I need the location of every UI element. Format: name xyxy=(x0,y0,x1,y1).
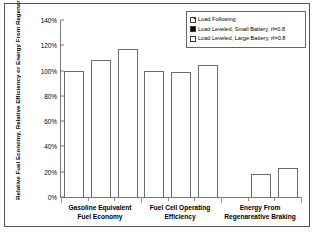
legend-entry-label: Load Leveled, Large Battery, rf=0.8 xyxy=(198,35,285,42)
legend-swatch-icon xyxy=(190,36,196,42)
x-axis-category-label-line1: Energy From xyxy=(220,203,300,212)
x-axis-tick-mark xyxy=(301,197,302,203)
x-axis-category-label: Energy FromRegenareative Braking xyxy=(220,203,300,221)
y-axis-tick-label: 100% xyxy=(41,67,57,74)
x-axis-tick-mark xyxy=(88,197,89,201)
legend-entry: Load Following xyxy=(190,15,302,25)
legend-entry: Load Leveled, Small Battery, rf=0.8 xyxy=(190,25,302,35)
y-axis-tick-label: 120% xyxy=(41,42,57,49)
x-axis-category-label: Fuel Cell OperatingEfficiency xyxy=(140,203,220,221)
bar-slot xyxy=(114,20,141,197)
x-axis-category-label-line2: Fuel Economy xyxy=(60,212,140,221)
y-axis-tick-label: 20% xyxy=(44,168,57,175)
bar xyxy=(64,71,84,197)
x-axis-category-label-line1: Fuel Cell Operating xyxy=(140,203,220,212)
bar xyxy=(198,65,218,197)
bar-slot xyxy=(141,20,168,197)
x-axis-category-label-line1: Gasoline Equivalent xyxy=(60,203,140,212)
x-axis-tick-mark xyxy=(248,197,249,201)
bar xyxy=(251,174,271,197)
bar xyxy=(171,72,191,197)
legend-swatch-icon xyxy=(190,26,196,32)
bar xyxy=(278,168,298,197)
y-axis-tick-label: 140% xyxy=(41,17,57,24)
x-axis-tick-mark xyxy=(274,197,275,201)
legend-entry-label: Load Leveled, Small Battery, rf=0.8 xyxy=(198,26,285,33)
x-axis-category-label-line2: Efficiency xyxy=(140,212,220,221)
x-axis-tick-mark xyxy=(194,197,195,201)
legend-entry-label: Load Following xyxy=(198,16,236,23)
legend-entry: Load Leveled, Large Battery, rf=0.8 xyxy=(190,34,302,44)
x-axis-category-label-line2: Regenareative Braking xyxy=(220,212,300,221)
bar xyxy=(144,71,164,197)
y-axis-title: Relative Fuel Economy, Relative Efficien… xyxy=(14,14,22,200)
y-axis-tick-label: 60% xyxy=(44,118,57,125)
bar-slot xyxy=(61,20,88,197)
x-axis-tick-mark xyxy=(114,197,115,201)
chart-figure: Relative Fuel Economy, Relative Efficien… xyxy=(0,0,314,232)
bar-group xyxy=(61,20,141,197)
x-axis-labels: Gasoline EquivalentFuel EconomyFuel Cell… xyxy=(60,203,300,221)
chart-legend: Load FollowingLoad Leveled, Small Batter… xyxy=(186,11,306,48)
x-axis-tick-mark xyxy=(168,197,169,201)
x-axis-category-label: Gasoline EquivalentFuel Economy xyxy=(60,203,140,221)
y-axis-tick-label: 80% xyxy=(44,92,57,99)
bar xyxy=(118,49,138,197)
y-axis-tick-label: 0% xyxy=(48,194,57,201)
bar xyxy=(91,60,111,197)
legend-swatch-icon xyxy=(190,17,196,23)
y-axis-tick-label: 40% xyxy=(44,143,57,150)
y-axis-title-container: Relative Fuel Economy, Relative Efficien… xyxy=(6,14,30,200)
bar-slot xyxy=(88,20,115,197)
